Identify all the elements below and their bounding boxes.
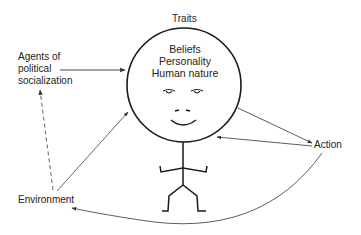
- traits-label: Traits: [172, 13, 197, 25]
- agents-line-1: Agents of: [18, 51, 72, 63]
- node-action: Action: [314, 139, 342, 151]
- nose-icon: [175, 110, 190, 111]
- inner-trait-list: Beliefs Personality Human nature: [141, 43, 229, 79]
- edge-person-to-action: [238, 108, 312, 143]
- edge-environment-to-agents: [40, 90, 53, 190]
- eyes-icon: [163, 90, 203, 94]
- edge-action-to-person: [217, 137, 312, 146]
- agents-line-3: socialization: [18, 75, 72, 87]
- trait-human-nature: Human nature: [141, 67, 229, 79]
- edge-environment-to-person: [57, 112, 128, 191]
- trait-beliefs: Beliefs: [141, 43, 229, 55]
- agents-line-2: political: [18, 63, 72, 75]
- edge-action-to-environment: [72, 153, 322, 224]
- mouth-icon: [171, 120, 196, 125]
- trait-personality: Personality: [141, 55, 229, 67]
- node-environment: Environment: [18, 194, 74, 206]
- node-agents-of-political-socialization: Agents of political socialization: [18, 51, 72, 87]
- stick-figure-body: [160, 142, 207, 211]
